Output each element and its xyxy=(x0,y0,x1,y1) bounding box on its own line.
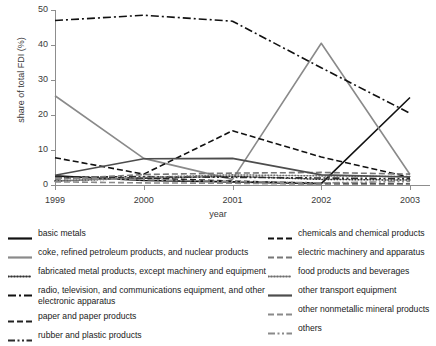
legend-item[interactable]: fabricated metal products, except machin… xyxy=(8,266,266,279)
legend-item-label: paper and paper products xyxy=(38,311,136,322)
legend-column-left: basic metalscoke, refined petroleum prod… xyxy=(8,228,266,346)
swatch-basic-metals-icon xyxy=(8,230,32,241)
swatch-others-icon xyxy=(268,325,292,336)
series-line xyxy=(55,98,410,184)
legend-item[interactable]: others xyxy=(268,323,436,336)
swatch-coke-icon xyxy=(8,249,32,260)
legend-item-label: electric machinery and apparatus xyxy=(298,247,425,258)
legend-item-label: other nonmetallic mineral products xyxy=(298,304,429,315)
legend-item[interactable]: other nonmetallic mineral products xyxy=(268,304,436,317)
legend-item[interactable]: food products and beverages xyxy=(268,266,436,279)
series-lines xyxy=(0,0,436,222)
legend-column-right: chemicals and chemical productselectric … xyxy=(268,228,436,342)
legend-item-label: other transport equipment xyxy=(298,285,396,296)
legend-item[interactable]: chemicals and chemical products xyxy=(268,228,436,241)
legend-item-label: rubber and plastic products xyxy=(38,330,142,341)
series-svg xyxy=(0,0,436,222)
legend-item-label: others xyxy=(298,323,322,334)
swatch-radio-tv-icon xyxy=(8,287,32,298)
swatch-fabricated-metal-icon xyxy=(8,268,32,279)
swatch-electric-machinery-icon xyxy=(268,249,292,260)
legend-item[interactable]: rubber and plastic products xyxy=(8,330,266,343)
legend-item-label: coke, refined petroleum products, and nu… xyxy=(38,247,248,258)
legend-item[interactable]: other transport equipment xyxy=(268,285,436,298)
series-line xyxy=(55,131,410,178)
x-axis-title: year xyxy=(0,209,436,219)
swatch-chemicals-icon xyxy=(268,230,292,241)
y-axis-title: share of total FDI (%) xyxy=(16,10,26,150)
swatch-rubber-icon xyxy=(8,332,32,343)
swatch-food-icon xyxy=(268,268,292,279)
swatch-other-transport-icon xyxy=(268,287,292,298)
legend: basic metalscoke, refined petroleum prod… xyxy=(0,228,436,341)
legend-item-label: chemicals and chemical products xyxy=(298,228,425,239)
legend-item[interactable]: basic metals xyxy=(8,228,266,241)
legend-item[interactable]: paper and paper products xyxy=(8,311,266,324)
series-line xyxy=(55,15,410,113)
swatch-paper-icon xyxy=(8,313,32,324)
legend-item[interactable]: electric machinery and apparatus xyxy=(268,247,436,260)
legend-item[interactable]: radio, television, and communications eq… xyxy=(8,285,266,306)
legend-item-label: fabricated metal products, except machin… xyxy=(38,266,266,277)
legend-item-label: food products and beverages xyxy=(298,266,409,277)
plot-area: 0102030405019992000200120022003 share of… xyxy=(0,0,436,222)
legend-item-label: radio, television, and communications eq… xyxy=(38,285,266,306)
swatch-nonmetallic-icon xyxy=(268,306,292,317)
legend-item-label: basic metals xyxy=(38,228,86,239)
legend-item[interactable]: coke, refined petroleum products, and nu… xyxy=(8,247,266,260)
